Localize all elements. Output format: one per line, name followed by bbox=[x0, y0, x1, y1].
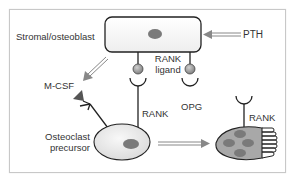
osteoclast-nucleus bbox=[234, 149, 246, 157]
label-rank-ligand: RANK ligand bbox=[150, 53, 186, 75]
osteoclast-nucleus bbox=[234, 130, 246, 138]
ruffled-border bbox=[262, 128, 277, 158]
rank-receptor-precursor bbox=[130, 78, 146, 128]
label-pth: PTH bbox=[243, 29, 263, 40]
osteoclast-nucleus bbox=[223, 139, 235, 147]
osteoclast-precursor bbox=[94, 124, 150, 160]
opg-decoy-receptor-icon bbox=[182, 78, 198, 86]
mcsf-receptor-icon bbox=[80, 101, 108, 128]
rank-ligand-right bbox=[185, 52, 195, 74]
label-stromal-osteoblast: Stromal/osteoblast bbox=[16, 31, 95, 42]
label-osteoclast-precursor: Osteoclast precursor bbox=[38, 131, 90, 153]
precursor-nucleus bbox=[123, 139, 139, 149]
label-rank-osteoclast: RANK bbox=[249, 112, 275, 123]
osteoclast-nucleus bbox=[242, 139, 254, 147]
label-rank-precursor: RANK bbox=[142, 108, 168, 119]
stromal-nucleus bbox=[148, 29, 162, 39]
rank-ligand-left bbox=[133, 52, 143, 74]
label-mcsf: M-CSF bbox=[44, 80, 74, 91]
osteoclast bbox=[216, 127, 277, 160]
pth-arrow bbox=[203, 30, 241, 39]
label-opg: OPG bbox=[181, 101, 202, 112]
mcsf-ligand-icon bbox=[73, 90, 84, 101]
mcsf-arrow bbox=[83, 57, 108, 81]
stromal-cell bbox=[105, 17, 201, 52]
differentiation-arrow bbox=[158, 139, 210, 148]
